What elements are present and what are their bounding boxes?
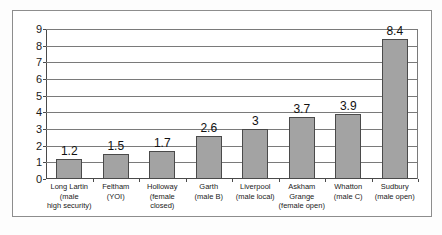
category-label-line: Sudbury — [372, 182, 419, 192]
bar[interactable] — [56, 159, 82, 179]
y-tick-label: 8 — [36, 40, 42, 51]
y-tick-mark — [43, 179, 46, 180]
bar-value-label: 1.5 — [107, 140, 124, 152]
y-tick-label: 6 — [36, 74, 42, 85]
bar-slot: 1.5 — [93, 29, 140, 179]
bar-slot: 1.2 — [46, 29, 93, 179]
category-label: Holloway(femaleclosed) — [139, 182, 186, 211]
bar-slot: 3 — [232, 29, 279, 179]
category-label: Sudbury(male open) — [372, 182, 419, 201]
y-tick-label: 4 — [36, 107, 42, 118]
category-label: Garth(male B) — [186, 182, 233, 201]
category-label-line: closed) — [139, 201, 186, 211]
category-label-line: (male open) — [372, 192, 419, 202]
category-label-line: (male C) — [325, 192, 372, 202]
bar-value-label: 2.6 — [200, 122, 217, 134]
y-tick-label: 1 — [36, 157, 42, 168]
bar[interactable] — [242, 129, 268, 179]
bar-slot: 3.9 — [325, 29, 372, 179]
category-label-line: (male local) — [232, 192, 279, 202]
category-axis-labels: Long Lartin(malehigh security)Feltham(YO… — [46, 182, 418, 216]
figure-canvas: 01234567891.21.51.72.633.73.98.4 Long La… — [0, 0, 442, 235]
category-label-line: (male — [46, 192, 93, 202]
bar-slot: 3.7 — [279, 29, 326, 179]
category-label-line: Liverpool — [232, 182, 279, 192]
y-tick-label: 0 — [36, 174, 42, 185]
bar[interactable] — [335, 114, 361, 179]
category-label-line: (female open) — [279, 201, 326, 211]
bar-slot: 8.4 — [372, 29, 419, 179]
category-label-line: Grange — [279, 192, 326, 202]
y-tick-label: 9 — [36, 24, 42, 35]
category-label-line: Feltham — [93, 182, 140, 192]
chart-frame: 01234567891.21.51.72.633.73.98.4 Long La… — [12, 10, 432, 217]
category-label-line: Long Lartin — [46, 182, 93, 192]
bar-value-label: 3.7 — [293, 103, 310, 115]
category-label-line: (YOI) — [93, 192, 140, 202]
y-tick-label: 2 — [36, 140, 42, 151]
category-label: Feltham(YOI) — [93, 182, 140, 201]
bar-value-label: 3.9 — [340, 100, 357, 112]
bar-slot: 2.6 — [186, 29, 233, 179]
x-tick-mark — [418, 179, 419, 182]
category-label: Liverpool(male local) — [232, 182, 279, 201]
y-tick-label: 3 — [36, 124, 42, 135]
bar-slot: 1.7 — [139, 29, 186, 179]
plot-area: 01234567891.21.51.72.633.73.98.4 — [46, 29, 418, 179]
bar[interactable] — [103, 154, 129, 179]
bar-value-label: 3 — [252, 115, 259, 127]
bar[interactable] — [289, 117, 315, 179]
category-label-line: Whatton — [325, 182, 372, 192]
bar-value-label: 1.7 — [154, 137, 171, 149]
bar-value-label: 1.2 — [61, 145, 78, 157]
category-label-line: (male B) — [186, 192, 233, 202]
y-tick-label: 7 — [36, 57, 42, 68]
category-label: AskhamGrange(female open) — [279, 182, 326, 211]
bar[interactable] — [149, 151, 175, 179]
category-label-line: high security) — [46, 201, 93, 211]
category-label-line: Garth — [186, 182, 233, 192]
bar[interactable] — [196, 136, 222, 179]
category-label-line: Holloway — [139, 182, 186, 192]
category-label: Whatton(male C) — [325, 182, 372, 201]
category-label-line: Askham — [279, 182, 326, 192]
category-label: Long Lartin(malehigh security) — [46, 182, 93, 211]
category-label-line: (female — [139, 192, 186, 202]
bar-value-label: 8.4 — [386, 25, 403, 37]
y-tick-label: 5 — [36, 90, 42, 101]
bar[interactable] — [382, 39, 408, 179]
